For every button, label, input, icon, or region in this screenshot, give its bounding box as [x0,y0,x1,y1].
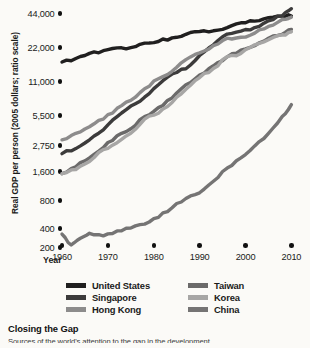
legend-swatch [66,307,86,312]
caption-source: Sources of the world's attention to the … [8,337,308,343]
legend-item[interactable]: Korea [188,291,244,303]
x-tick: 2010 [274,243,308,262]
legend-swatch [188,295,208,300]
x-tick-dot [289,243,294,248]
legend-swatch [66,295,86,300]
x-tick: 2000 [229,243,263,262]
legend-item[interactable]: Taiwan [188,279,244,291]
chart-figure: Real GDP per person (2005 dollars; ratio… [0,0,310,348]
x-tick-dot [197,243,202,248]
legend-label: United States [92,280,150,291]
legend-column-left: United StatesSingaporeHong Kong [66,279,150,316]
legend-label: Taiwan [214,280,244,291]
legend-label: Hong Kong [92,304,141,315]
x-tick-label: 1990 [183,252,217,262]
x-tick-label: 1970 [91,252,125,262]
legend-swatch [188,283,208,288]
legend-label: China [214,304,239,315]
x-tick-label: 1980 [137,252,171,262]
legend-swatch [188,307,208,312]
legend-item[interactable]: China [188,304,244,316]
legend-label: Korea [214,292,240,303]
x-axis-title: Year [43,255,62,265]
legend-swatch [66,283,86,288]
x-tick: 1970 [91,243,125,262]
x-tick-label: 2010 [274,252,308,262]
caption-block: Closing the Gap Sources of the world's a… [8,323,308,343]
x-tick-dot [243,243,248,248]
x-axis-ticks: 196019701980199020002010 [0,0,310,270]
x-tick: 1990 [183,243,217,262]
x-tick-label: 2000 [229,252,263,262]
legend-item[interactable]: Hong Kong [66,304,150,316]
legend-label: Singapore [92,292,137,303]
x-tick-dot [106,243,111,248]
x-tick-dot [152,243,157,248]
x-tick: 1980 [137,243,171,262]
chart-legend: United StatesSingaporeHong Kong TaiwanKo… [66,279,310,319]
legend-column-right: TaiwanKoreaChina [188,279,244,316]
legend-item[interactable]: Singapore [66,291,150,303]
caption-title: Closing the Gap [8,323,308,334]
legend-item[interactable]: United States [66,279,150,291]
x-tick-dot [60,243,65,248]
